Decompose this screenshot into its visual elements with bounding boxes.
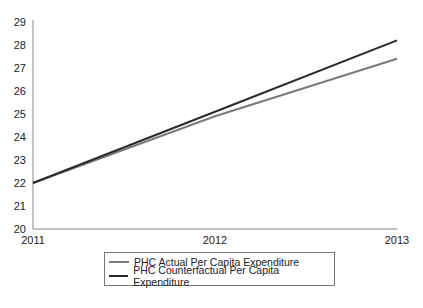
- x-axis: 201120122013: [21, 229, 409, 246]
- y-tick-label: 25: [14, 108, 26, 120]
- legend-swatch-counterfactual: [109, 275, 128, 277]
- legend-item-counterfactual: PHC Counterfactual Per Capita Expenditur…: [109, 269, 330, 283]
- series-lines: [33, 40, 397, 183]
- legend-label-counterfactual: PHC Counterfactual Per Capita Expenditur…: [133, 264, 330, 288]
- x-tick-label: 2012: [203, 234, 227, 246]
- y-tick-label: 27: [14, 62, 26, 74]
- x-tick-label: 2013: [385, 234, 409, 246]
- series-line-counterfactual: [33, 40, 397, 183]
- y-axis: 20212223242526272829: [14, 16, 33, 235]
- x-tick-label: 2011: [21, 234, 45, 246]
- y-tick-label: 26: [14, 85, 26, 97]
- series-line-actual: [33, 59, 397, 183]
- y-tick-label: 23: [14, 154, 26, 166]
- legend: PHC Actual Per Capita Expenditure PHC Co…: [104, 252, 335, 286]
- y-tick-label: 24: [14, 131, 26, 143]
- y-tick-label: 29: [14, 16, 26, 28]
- y-tick-label: 28: [14, 39, 26, 51]
- y-tick-label: 22: [14, 177, 26, 189]
- y-tick-label: 21: [14, 200, 26, 212]
- legend-swatch-actual: [109, 261, 129, 263]
